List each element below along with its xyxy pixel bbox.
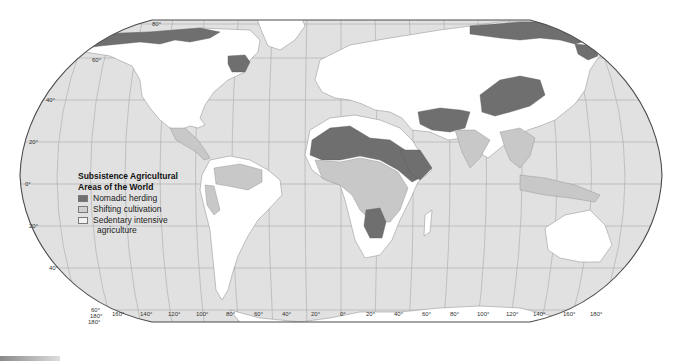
lat-label-40n: 40° [46,97,56,103]
legend-label: Shifting cultivation [93,204,162,214]
svg-text:140°: 140° [140,311,153,317]
lat-label-20n: 20° [29,139,39,145]
legend-item-shifting-cultivation: Shifting cultivation [78,204,198,214]
bottom-gradient-bar [0,356,60,361]
legend-label: Nomadic herding [93,193,157,203]
legend-title-line1: Subsistence Agricultural [78,171,198,182]
svg-text:120°: 120° [168,311,181,317]
nomadic-herding-swatch [78,195,88,202]
lat-label-40s: 40° [49,265,59,271]
lat-label-80n: 80° [152,21,162,27]
svg-text:80°: 80° [226,311,236,317]
legend-item-sedentary-intensive: Sedentary intensive agriculture [78,215,198,235]
svg-text:80°: 80° [450,311,460,317]
lat-label-equator: 0° [25,181,31,187]
lat-label-20s: 20° [29,223,39,229]
svg-text:160°: 160° [112,311,125,317]
svg-text:40°: 40° [282,311,292,317]
legend-item-nomadic-herding: Nomadic herding [78,193,198,203]
svg-text:180°: 180° [590,311,603,317]
svg-text:20°: 20° [366,311,376,317]
svg-text:160°: 160° [563,311,576,317]
svg-text:100°: 100° [477,311,490,317]
legend-label: Sedentary intensive agriculture [93,215,168,235]
shifting-cultivation-swatch [78,206,88,213]
svg-text:120°: 120° [506,311,519,317]
legend-title-line2: Areas of the World [78,182,198,193]
svg-text:60°: 60° [422,311,432,317]
svg-text:60°: 60° [254,311,264,317]
svg-text:140°: 140° [533,311,546,317]
sedentary-intensive-swatch [78,217,88,224]
lat-label-60n: 60° [92,57,102,63]
svg-text:0°: 0° [340,311,346,317]
lon-label-180-west: 180° [88,319,101,325]
svg-text:100°: 100° [196,311,209,317]
svg-text:20°: 20° [311,311,321,317]
map-legend: Subsistence Agricultural Areas of the Wo… [78,171,198,235]
svg-text:40°: 40° [394,311,404,317]
